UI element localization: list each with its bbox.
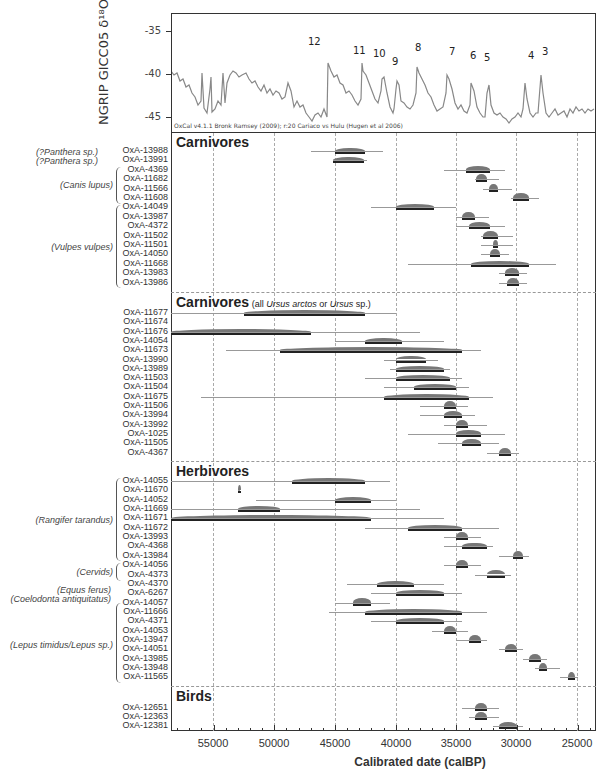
sample-label: OxA-4367 xyxy=(127,448,168,457)
probability-distribution xyxy=(280,347,462,350)
x-tick xyxy=(505,728,506,731)
x-tick xyxy=(347,728,348,731)
probability-distribution xyxy=(487,570,505,574)
sample-label: OxA-12381 xyxy=(122,721,168,730)
x-tick xyxy=(529,728,530,731)
probability-distribution xyxy=(568,672,575,677)
hpd-range-bar xyxy=(476,180,487,182)
sample-label: OxA-11682 xyxy=(123,174,168,183)
probability-distribution xyxy=(396,590,445,593)
sample-label: OxA-14051 xyxy=(122,644,168,653)
probability-distribution xyxy=(396,375,451,378)
x-tick xyxy=(359,728,360,731)
probability-range xyxy=(256,500,396,501)
hpd-range-bar xyxy=(466,171,490,173)
probability-distribution xyxy=(499,722,517,726)
probability-distribution xyxy=(238,485,241,490)
section-title-text: Carnivores xyxy=(176,294,249,310)
x-tick-label: 25000 xyxy=(552,737,602,749)
x-tick xyxy=(299,728,300,731)
gridline xyxy=(516,133,517,731)
probability-distribution xyxy=(513,551,523,556)
hpd-range-bar xyxy=(396,208,435,210)
hpd-range-bar xyxy=(238,491,241,493)
x-tick xyxy=(371,728,372,731)
hpd-range-bar xyxy=(171,519,371,521)
taxon-label: (Vulpes vulpes) xyxy=(51,242,113,252)
probability-distribution xyxy=(335,497,371,500)
probability-distribution xyxy=(456,560,468,565)
ngrip-y-axis-title: NGRIP GICC05 δ¹⁸O xyxy=(96,0,111,125)
hpd-range-bar xyxy=(396,379,451,381)
sample-label: OxA-11670 xyxy=(123,485,168,494)
hpd-range-bar xyxy=(365,342,401,344)
probability-distribution xyxy=(333,157,365,160)
gridline xyxy=(577,133,578,731)
probability-distribution xyxy=(456,430,480,434)
gridline xyxy=(213,133,214,731)
subtitle-part: or xyxy=(317,299,330,309)
sample-label: OxA-11674 xyxy=(123,317,168,326)
probability-distribution xyxy=(171,329,311,332)
x-tick xyxy=(566,728,567,731)
hpd-range-bar xyxy=(499,727,517,729)
hpd-range-bar xyxy=(171,333,311,335)
probability-distribution xyxy=(456,532,468,537)
probability-distribution xyxy=(292,478,365,481)
probability-distribution xyxy=(489,184,498,189)
section-subtitle: (all Ursus arctos or Ursus sp.) xyxy=(249,299,371,309)
probability-distribution xyxy=(483,231,498,236)
probability-distribution xyxy=(377,581,413,584)
taxon-label: (Rangifer tarandus) xyxy=(35,515,113,525)
hpd-range-bar xyxy=(490,255,500,257)
probability-distribution xyxy=(493,240,498,245)
hpd-range-bar xyxy=(505,274,520,276)
probability-distribution xyxy=(396,366,445,369)
probability-distribution xyxy=(466,166,490,170)
probability-distribution xyxy=(444,401,456,406)
x-tick xyxy=(432,728,433,731)
x-tick xyxy=(384,728,385,731)
hpd-range-bar xyxy=(513,557,523,559)
brace xyxy=(116,478,121,561)
x-tick xyxy=(177,728,178,731)
sample-label: OxA-13994 xyxy=(122,410,168,419)
probability-distribution xyxy=(476,174,487,179)
x-tick xyxy=(396,725,397,731)
gridline xyxy=(335,133,336,731)
brace xyxy=(116,205,121,288)
probability-distribution xyxy=(244,310,365,313)
x-tick xyxy=(481,728,482,731)
section-divider xyxy=(171,461,596,462)
section-title-ursus: Carnivores (all Ursus arctos or Ursus sp… xyxy=(176,294,371,310)
hpd-range-bar xyxy=(483,237,498,239)
probability-distribution xyxy=(475,703,487,708)
hpd-range-bar xyxy=(444,416,462,418)
sample-label: OxA-13983 xyxy=(122,268,168,277)
probability-distribution xyxy=(365,338,401,341)
hpd-range-bar xyxy=(456,435,480,437)
sample-label: OxA-4371 xyxy=(127,616,168,625)
taxon-label: (Coelodonta antiquitatus) xyxy=(10,594,111,604)
brace xyxy=(116,563,121,581)
probability-distribution xyxy=(462,212,474,217)
probability-distribution xyxy=(384,394,469,397)
probability-distribution xyxy=(171,515,371,518)
x-tick xyxy=(590,728,591,731)
hpd-range-bar xyxy=(244,314,365,316)
section-title-carnivores: Carnivores xyxy=(176,134,249,150)
hpd-range-bar xyxy=(499,454,511,456)
gridline xyxy=(274,133,275,731)
taxon-label: (Lepus timidus/Lepus sp.) xyxy=(10,640,113,650)
probability-range xyxy=(171,509,420,510)
hpd-range-bar xyxy=(333,161,365,163)
hpd-range-bar xyxy=(377,585,413,587)
hpd-range-bar xyxy=(396,370,445,372)
x-tick xyxy=(456,725,457,731)
hpd-range-bar xyxy=(529,660,541,662)
sample-label: OxA-11505 xyxy=(123,438,168,447)
section-title-herbivores: Herbivores xyxy=(176,463,249,479)
hpd-range-bar xyxy=(396,622,445,624)
x-tick xyxy=(541,728,542,731)
x-tick xyxy=(286,728,287,731)
